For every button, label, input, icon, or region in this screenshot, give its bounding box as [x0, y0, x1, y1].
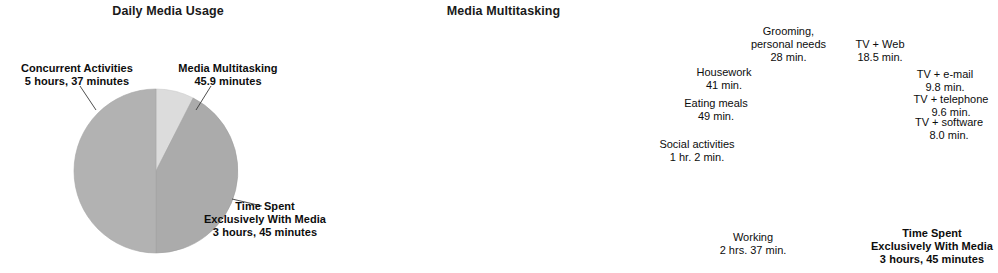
chart-panel-media-multitasking: Media Multitasking — [336, 0, 671, 273]
chart-panel-daily-media-usage: Daily Media Usage Concurrent Activities … — [0, 0, 336, 273]
label-exclusive-media-right: Time Spent Exclusively With Media 3 hour… — [862, 227, 998, 267]
leader-line-concurrent-activities — [80, 86, 96, 110]
label-housework: Housework 41 min. — [691, 66, 757, 92]
label-tv-web: TV + Web 18.5 min. — [844, 38, 916, 64]
label-tv-email: TV + e-mail 9.8 min. — [899, 68, 991, 94]
leader-lines-right — [336, 0, 671, 273]
leader-line-media-multitasking — [196, 86, 211, 110]
label-grooming-personal-needs: Grooming, personal needs 28 min. — [736, 25, 841, 65]
label-media-multitasking: Media Multitasking 45.9 minutes — [163, 62, 293, 88]
label-working: Working 2 hrs. 37 min. — [705, 231, 801, 257]
label-exclusive-media-left: Time Spent Exclusively With Media 3 hour… — [195, 200, 335, 240]
label-eating-meals: Eating meals 49 min. — [683, 97, 749, 123]
label-social-activities: Social activities 1 hr. 2 min. — [654, 138, 740, 164]
label-concurrent-activities: Concurrent Activities 5 hours, 37 minute… — [2, 62, 152, 88]
label-tv-software: TV + software 8.0 min. — [899, 116, 998, 142]
